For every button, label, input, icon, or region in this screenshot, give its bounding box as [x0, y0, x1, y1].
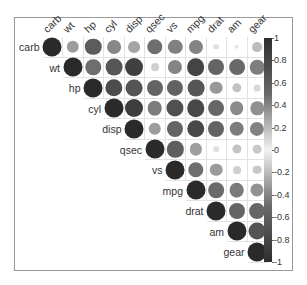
matrix-cell — [166, 78, 187, 99]
matrix-cell — [43, 37, 64, 58]
correlation-circle — [167, 100, 184, 117]
correlation-circle — [187, 79, 204, 96]
correlation-circle — [186, 181, 205, 200]
correlation-circle — [190, 143, 202, 155]
matrix-cell — [207, 58, 228, 79]
matrix-cell — [227, 119, 248, 140]
matrix-cell — [166, 37, 187, 58]
colorbar-tick-label: 0.2 — [274, 123, 287, 133]
correlation-circle — [187, 58, 205, 76]
matrix-cell — [145, 37, 166, 58]
matrix-cell — [166, 99, 187, 120]
correlation-circle — [67, 41, 79, 53]
row-label: cyl — [41, 103, 101, 115]
matrix-cell — [145, 119, 166, 140]
matrix-cell — [145, 58, 166, 79]
matrix-cell — [125, 58, 146, 79]
matrix-cell — [227, 222, 248, 243]
matrix-cell — [145, 99, 166, 120]
matrix-cell — [166, 58, 187, 79]
correlation-circle — [84, 78, 103, 97]
correlation-circle — [105, 79, 122, 96]
correlation-circle — [229, 203, 245, 219]
correlation-circle — [208, 100, 224, 116]
matrix-cell — [104, 99, 125, 120]
correlation-circle — [213, 146, 219, 152]
matrix-cell — [207, 78, 228, 99]
matrix-cell — [207, 140, 228, 161]
row-label: disp — [62, 123, 122, 135]
correlation-circle — [86, 60, 101, 75]
row-label: mpg — [123, 185, 183, 197]
colorbar-tick-label: -0.4 — [274, 190, 290, 200]
correlation-circle — [167, 141, 183, 157]
correlation-circle — [147, 39, 162, 54]
correlation-circle — [149, 123, 161, 135]
matrix-cell — [63, 58, 84, 79]
matrix-cell — [84, 37, 105, 58]
matrix-cell — [104, 37, 125, 58]
colorbar-tick-label: -1 — [274, 257, 282, 267]
matrix-cell — [84, 78, 105, 99]
row-label: gear — [185, 246, 245, 258]
matrix-cell — [207, 37, 228, 58]
matrix-cell — [227, 160, 248, 181]
correlation-circle — [168, 40, 182, 54]
correlation-circle — [105, 59, 122, 76]
correlation-circle — [229, 59, 245, 75]
correlation-circle — [253, 145, 262, 154]
matrix-cell — [227, 181, 248, 202]
colorbar-tick-label: -0.2 — [274, 167, 290, 177]
correlation-circle — [229, 121, 244, 136]
matrix-cell — [104, 58, 125, 79]
matrix-cell — [125, 119, 146, 140]
row-label: drat — [144, 205, 204, 217]
matrix-cell — [186, 119, 207, 140]
matrix-cell — [145, 140, 166, 161]
matrix-cell — [207, 201, 228, 222]
correlation-circle — [232, 145, 241, 154]
matrix-cell — [227, 78, 248, 99]
correlation-circle — [85, 39, 101, 55]
matrix-cell — [125, 37, 146, 58]
row-label: qsec — [82, 144, 142, 156]
correlation-circle — [232, 83, 241, 92]
colorbar-tick-label: 1 — [274, 33, 279, 43]
row-label: hp — [21, 82, 81, 94]
matrix-cell — [125, 99, 146, 120]
correlation-circle — [210, 81, 223, 94]
correlation-circle — [207, 201, 226, 220]
correlation-circle — [208, 182, 224, 198]
matrix-cell — [207, 181, 228, 202]
colorbar-tick-label: -0.8 — [274, 235, 290, 245]
matrix-cell — [63, 37, 84, 58]
correlation-circle — [250, 60, 264, 74]
matrix-cell — [186, 160, 207, 181]
correlation-circle — [43, 37, 62, 56]
correlation-circle — [254, 84, 261, 91]
correlation-circle — [166, 160, 185, 179]
correlation-circle — [168, 60, 182, 74]
correlation-circle — [188, 162, 203, 177]
correlation-circle — [250, 122, 264, 136]
correlation-circle — [187, 99, 205, 117]
correlation-circle — [147, 101, 162, 116]
matrix-cell — [84, 58, 105, 79]
row-label: am — [164, 226, 224, 238]
correlation-circle — [230, 101, 244, 115]
matrix-cell — [166, 140, 187, 161]
row-label: carb — [0, 41, 40, 53]
correlation-circle — [251, 102, 264, 115]
matrix-cell — [186, 78, 207, 99]
colorbar-tick-label: 0 — [274, 145, 279, 155]
correlation-circle — [187, 120, 205, 138]
correlation-circle — [151, 63, 159, 71]
colorbar-tick-label: -0.6 — [274, 212, 290, 222]
correlation-circle — [128, 41, 140, 53]
matrix-cell — [145, 78, 166, 99]
correlation-circle — [249, 203, 265, 219]
correlation-circle — [126, 79, 143, 96]
matrix-cell — [166, 119, 187, 140]
matrix-cell — [125, 78, 146, 99]
matrix-cell — [186, 58, 207, 79]
